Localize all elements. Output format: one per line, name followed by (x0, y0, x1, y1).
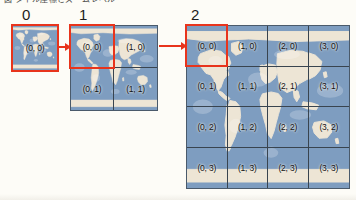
map-tile[interactable]: (1, 1) (114, 68, 157, 110)
tile-coordinate-label: (2, 1) (268, 82, 308, 91)
tile-grid-zoom-2: (0, 0)(1, 0)(2, 0)(3, 0)(0, 1)(1, 1)(2, … (186, 25, 350, 189)
map-tile[interactable]: (0, 0) (13, 26, 57, 70)
map-tile[interactable]: (1, 2) (228, 107, 269, 148)
map-tile[interactable]: (0, 0) (71, 26, 114, 68)
tile-coordinate-label: (3, 3) (309, 163, 350, 172)
arrow-zoom-1-to-2 (159, 45, 186, 47)
tile-coordinate-label: (1, 1) (228, 82, 268, 91)
map-tile[interactable]: (3, 0) (309, 26, 350, 67)
map-tile[interactable]: (0, 1) (187, 67, 228, 108)
tile-coordinate-label: (0, 0) (187, 41, 227, 50)
tile-coordinate-label: (3, 1) (309, 82, 350, 91)
tile-coordinate-label: (3, 0) (309, 41, 350, 50)
zoom-level-label-0: 0 (22, 7, 30, 22)
map-tile[interactable]: (2, 3) (268, 148, 309, 189)
tile-coordinate-label: (1, 2) (228, 122, 268, 131)
tile-coordinate-label: (1, 1) (114, 85, 157, 94)
arrow-zoom-0-to-1 (59, 46, 70, 48)
zoom-level-label-1: 1 (79, 7, 87, 22)
map-tile[interactable]: (0, 3) (187, 148, 228, 189)
tile-coordinate-label: (1, 0) (114, 42, 157, 51)
tile-pyramid-figure: 図 タイル座標とズームレベル 0 1 2 (0, 0) (0, 0)(1, 0)… (0, 0, 356, 200)
zoom-level-label-2: 2 (191, 7, 199, 22)
tile-coordinate-label: (1, 3) (228, 163, 268, 172)
map-tile[interactable]: (0, 1) (71, 68, 114, 110)
tile-coordinate-label: (0, 2) (187, 122, 227, 131)
map-tile[interactable]: (1, 1) (228, 67, 269, 108)
tile-coordinate-label: (0, 3) (187, 163, 227, 172)
tile-coordinate-label: (2, 0) (268, 41, 308, 50)
map-tile[interactable]: (3, 3) (309, 148, 350, 189)
paper-edge (0, 194, 356, 200)
map-tile[interactable]: (2, 2) (268, 107, 309, 148)
tile-grid-zoom-0: (0, 0) (12, 25, 58, 71)
map-tile[interactable]: (0, 0) (187, 26, 228, 67)
tile-coordinate-label: (2, 3) (268, 163, 308, 172)
map-tile[interactable]: (3, 2) (309, 107, 350, 148)
figure-caption-cutoff: 図 タイル座標とズームレベル (4, 0, 124, 4)
tile-grid-zoom-1: (0, 0)(1, 0)(0, 1)(1, 1) (70, 25, 158, 111)
map-tile[interactable]: (2, 1) (268, 67, 309, 108)
map-tile[interactable]: (0, 2) (187, 107, 228, 148)
map-tile[interactable]: (1, 3) (228, 148, 269, 189)
tile-coordinate-label: (0, 1) (187, 82, 227, 91)
tile-coordinate-label: (3, 2) (309, 122, 350, 131)
tile-coordinate-label: (1, 0) (228, 41, 268, 50)
tile-coordinate-label: (0, 0) (71, 42, 113, 51)
map-tile[interactable]: (1, 0) (228, 26, 269, 67)
tile-coordinate-label: (2, 2) (268, 122, 308, 131)
tile-coordinate-label: (0, 1) (71, 85, 113, 94)
tile-coordinate-label: (0, 0) (13, 44, 57, 53)
map-tile[interactable]: (1, 0) (114, 26, 157, 68)
map-tile[interactable]: (2, 0) (268, 26, 309, 67)
map-tile[interactable]: (3, 1) (309, 67, 350, 108)
